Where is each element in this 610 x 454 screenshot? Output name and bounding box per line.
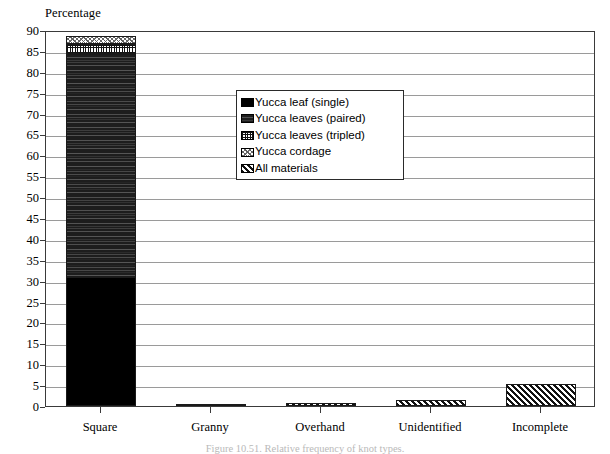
plot-area [45,31,595,407]
bar-overhand [286,31,356,406]
y-axis-title: Percentage [45,6,101,21]
x-axis-tick-mark [540,407,541,413]
y-axis-tick-label: 20 [9,317,39,330]
y-axis-tick-label: 10 [9,359,39,372]
y-axis-tick-label: 0 [9,401,39,414]
y-axis-tick-label: 90 [9,25,39,38]
legend-label: All materials [255,163,318,175]
x-axis-tick-mark [210,407,211,413]
x-axis-tick-label-overhand: Overhand [260,420,380,435]
y-axis-tick-label: 25 [9,297,39,310]
x-axis-tick-mark [100,407,101,413]
y-axis-tick-label: 75 [9,88,39,101]
legend-item: Yucca cordage [241,144,399,161]
bar-incomplete [506,31,576,406]
bar-segment [66,44,136,54]
legend-label: Yucca leaves (tripled) [255,130,365,142]
y-axis-tick-label: 5 [9,380,39,393]
y-axis-tick-label: 85 [9,46,39,59]
x-axis-tick-label-granny: Granny [150,420,270,435]
y-axis-tick-label: 40 [9,234,39,247]
bar-segment [66,54,136,276]
bar-segment [66,277,136,407]
legend-label: Yucca leaves (paired) [255,113,366,125]
x-axis-tick-label-unidentified: Unidentified [370,420,490,435]
legend-item: All materials [241,160,399,177]
bar-segment [176,404,246,406]
legend-swatch-icon [241,148,254,157]
knot-type-bar-chart: Percentage 05101520253035404550556065707… [0,0,610,454]
y-axis-tick-label: 70 [9,109,39,122]
y-axis-tick-label: 15 [9,338,39,351]
legend-swatch-icon [241,131,254,140]
y-axis-tick-label: 65 [9,129,39,142]
legend-item: Yucca leaf (single) [241,94,399,111]
legend-swatch-icon [241,114,254,123]
y-axis-tick-label: 60 [9,150,39,163]
bar-segment [286,403,356,406]
bar-granny [176,31,246,406]
y-axis-tick-mark [40,407,45,408]
y-axis-tick-label: 55 [9,171,39,184]
y-axis-tick-label: 50 [9,192,39,205]
bar-unidentified [396,31,466,406]
legend-item: Yucca leaves (tripled) [241,127,399,144]
legend-label: Yucca leaf (single) [255,97,349,109]
x-axis-tick-mark [430,407,431,413]
x-axis-tick-label-square: Square [40,420,160,435]
chart-legend: Yucca leaf (single)Yucca leaves (paired)… [236,90,404,180]
legend-swatch-icon [241,164,254,173]
y-axis-tick-label: 45 [9,213,39,226]
y-axis-tick-label: 30 [9,276,39,289]
y-axis-tick-label: 80 [9,67,39,80]
bar-segment [506,384,576,406]
x-axis-tick-label-incomplete: Incomplete [480,420,600,435]
legend-item: Yucca leaves (paired) [241,111,399,128]
bar-segment [66,36,136,44]
figure-caption: Figure 10.51. Relative frequency of knot… [0,443,610,454]
legend-label: Yucca cordage [255,146,331,158]
bar-square [66,31,136,406]
y-axis-tick-label: 35 [9,255,39,268]
bar-segment [396,400,466,406]
legend-swatch-icon [241,98,254,107]
x-axis-tick-mark [320,407,321,413]
